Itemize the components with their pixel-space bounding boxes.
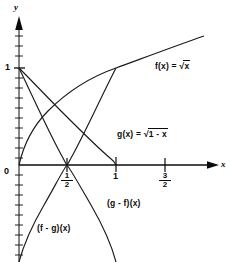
g-label-equals: = — [136, 129, 141, 139]
f-label-prefix: f(x) — [155, 61, 169, 71]
function-plot-canvas — [0, 0, 230, 262]
x-tick-label-three-halves: 3 2 — [159, 172, 171, 189]
y-axis-label: y — [14, 3, 18, 12]
f-label-radicand: x — [183, 60, 190, 71]
annotation-f-of-x: f(x) = √x — [155, 62, 190, 71]
annotation-f-minus-g: (f - g)(x) — [37, 224, 71, 233]
x-axis-label: x — [221, 160, 226, 169]
g-label-radical: √1 - x — [144, 130, 168, 139]
math-figure: y x 0 1 1 2 1 3 2 f(x) = √x g(x) = √1 - … — [0, 0, 230, 262]
annotation-g-of-x: g(x) = √1 - x — [117, 130, 168, 139]
y-axis-arrowhead — [15, 16, 23, 30]
curve-g-sqrt-1-minus-x — [19, 68, 116, 165]
x-axis-arrowhead — [207, 161, 219, 169]
curve-f-sqrt-x — [19, 36, 204, 165]
f-label-radical: √x — [179, 62, 190, 71]
g-label-radicand: 1 - x — [148, 128, 168, 139]
fraction-denominator: 2 — [61, 181, 73, 189]
fraction-denominator: 2 — [159, 181, 171, 189]
f-label-equals: = — [172, 61, 177, 71]
x-tick-label-one-half: 1 2 — [61, 172, 73, 189]
y-tick-label-1: 1 — [5, 63, 10, 72]
annotation-g-minus-f: (g - f)(x) — [107, 199, 141, 208]
origin-label: 0 — [4, 167, 9, 176]
x-tick-label-1: 1 — [113, 172, 118, 181]
g-label-prefix: g(x) — [117, 129, 133, 139]
